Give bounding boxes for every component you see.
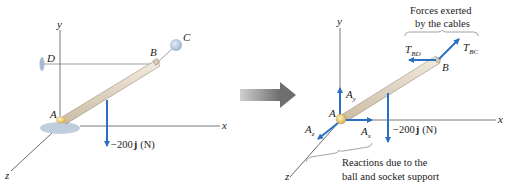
- point-b-label: B: [442, 61, 449, 73]
- cables-annotation-line2: by the cables: [415, 18, 470, 29]
- y-axis-label: y: [56, 18, 62, 30]
- reactions-annotation-line1: Reactions due to the: [342, 157, 428, 168]
- right-figure: y x z B A Ay Ax Az TBD TBC −200j(N) Forc…: [284, 5, 503, 182]
- tension-bd-label: TBD: [405, 43, 420, 58]
- tension-bc-label: TBC: [463, 41, 478, 56]
- right-arrow-icon: [240, 82, 296, 108]
- rod-ab: [343, 56, 440, 121]
- point-a-label: A: [328, 107, 336, 119]
- wall-plate-d: [40, 57, 45, 71]
- left-figure: y x z D C B A −200j(N): [4, 18, 227, 181]
- y-axis-label: y: [336, 15, 342, 27]
- rod-ab: [62, 60, 160, 124]
- reactions-annotation-line2: ball and socket support: [342, 171, 439, 182]
- reaction-az-label: Az: [304, 123, 315, 138]
- point-c-label: C: [183, 31, 191, 43]
- joint-a: [56, 117, 66, 124]
- z-axis-label: z: [4, 169, 10, 181]
- x-axis-label: x: [497, 113, 503, 125]
- free-body-diagram: y x z D C B A −200j(N): [0, 0, 511, 195]
- cable-bc: [158, 47, 174, 62]
- cables-annotation-line1: Forces exerted: [410, 5, 472, 16]
- reaction-ay-label: Ay: [345, 88, 357, 103]
- tension-bc-arrow: [439, 39, 459, 59]
- z-axis-label: z: [284, 170, 290, 182]
- cables-brace: [405, 30, 478, 36]
- reaction-az-arrow: [318, 123, 338, 139]
- reaction-ax-label: Ax: [360, 125, 372, 140]
- z-axis: [11, 133, 52, 171]
- load-label: −200j(N): [393, 124, 437, 136]
- point-a-label: A: [49, 108, 57, 120]
- x-axis-label: x: [221, 119, 227, 131]
- point-d-label: D: [46, 52, 55, 64]
- support-base: [40, 122, 80, 134]
- point-b-label: B: [150, 46, 157, 58]
- ball-c: [170, 39, 182, 51]
- load-label: −200j(N): [111, 139, 155, 151]
